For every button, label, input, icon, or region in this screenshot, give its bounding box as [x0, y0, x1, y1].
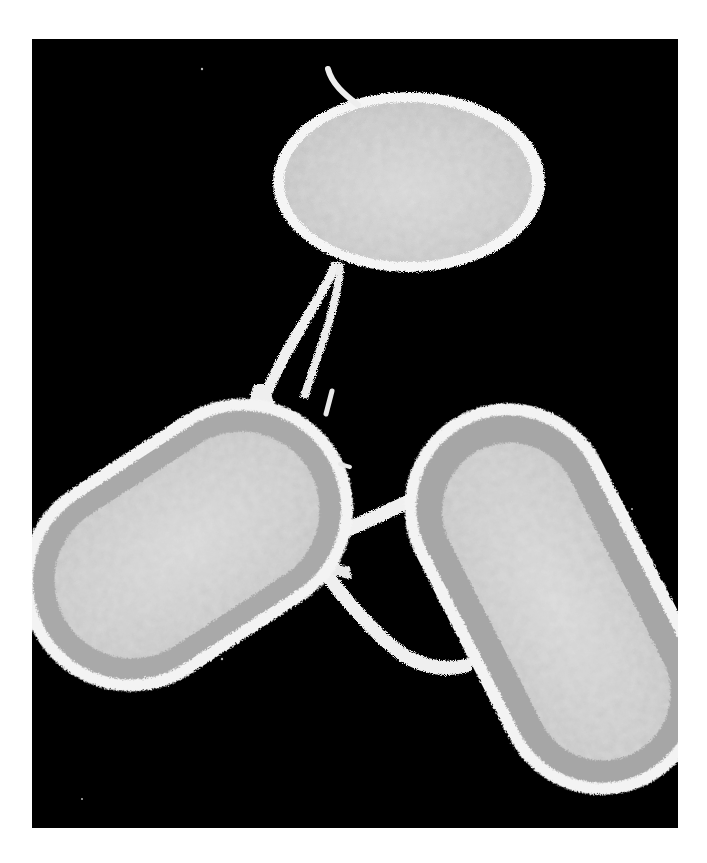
right-cell — [368, 367, 678, 828]
left-cell — [32, 356, 395, 733]
micrograph-frame — [32, 39, 678, 828]
cropped-caption-remnant — [0, 0, 707, 8]
pilus-left — [326, 391, 332, 414]
micrograph-image — [32, 39, 678, 828]
flagellum-top — [328, 69, 358, 105]
top-cell — [273, 92, 545, 272]
